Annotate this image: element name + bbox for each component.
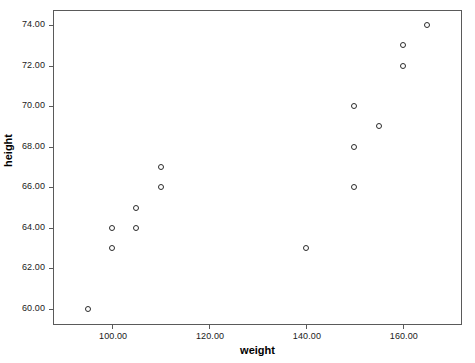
scatter-point [376, 123, 382, 129]
x-axis-tick-label: 140.00 [293, 331, 321, 341]
x-axis-tick: 120.00 [209, 324, 210, 329]
y-axis-tick: 70.00 [49, 106, 54, 107]
x-axis-tick: 140.00 [306, 324, 307, 329]
y-axis-tick: 74.00 [49, 25, 54, 26]
x-axis-tick-label: 160.00 [390, 331, 418, 341]
plot-frame: 60.0062.0064.0066.0068.0070.0072.0074.00… [53, 10, 462, 325]
y-axis-tick: 60.00 [49, 309, 54, 310]
scatter-point [133, 205, 139, 211]
scatter-point [303, 245, 309, 251]
x-axis-tick-label: 100.00 [99, 331, 127, 341]
scatter-point [351, 144, 357, 150]
y-axis-tick-label: 64.00 [22, 222, 45, 232]
y-axis-tick: 62.00 [49, 268, 54, 269]
y-axis-tick: 72.00 [49, 66, 54, 67]
plot-area [54, 11, 461, 324]
y-axis-tick: 66.00 [49, 187, 54, 188]
x-axis-tick: 160.00 [403, 324, 404, 329]
scatter-point [109, 225, 115, 231]
scatter-point [424, 22, 430, 28]
y-axis-tick: 64.00 [49, 228, 54, 229]
scatter-point [400, 63, 406, 69]
x-axis-tick: 100.00 [112, 324, 113, 329]
x-axis-title: weight [53, 344, 462, 356]
y-axis-title: height [2, 134, 14, 167]
scatter-point [351, 103, 357, 109]
y-axis-tick: 68.00 [49, 147, 54, 148]
scatter-point [400, 42, 406, 48]
y-axis-tick-label: 72.00 [22, 60, 45, 70]
scatter-point [133, 225, 139, 231]
scatter-plot-figure: 60.0062.0064.0066.0068.0070.0072.0074.00… [0, 0, 475, 363]
scatter-point [85, 306, 91, 312]
scatter-point [158, 184, 164, 190]
y-axis-tick-label: 68.00 [22, 141, 45, 151]
y-axis-tick-label: 62.00 [22, 262, 45, 272]
y-axis-tick-label: 66.00 [22, 181, 45, 191]
scatter-point [109, 245, 115, 251]
y-axis-tick-label: 60.00 [22, 303, 45, 313]
scatter-point [351, 184, 357, 190]
scatter-point [158, 164, 164, 170]
y-axis-tick-label: 74.00 [22, 19, 45, 29]
x-axis-tick-label: 120.00 [196, 331, 224, 341]
y-axis-tick-label: 70.00 [22, 100, 45, 110]
